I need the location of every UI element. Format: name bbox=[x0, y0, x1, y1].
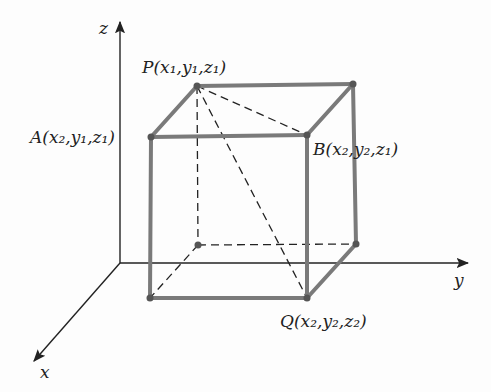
edge-A-B bbox=[151, 135, 307, 137]
vertex-back-bottom-left bbox=[195, 242, 202, 249]
point-A-label: A(x₂,y₁,z₁) bbox=[28, 127, 115, 147]
point-P-label: P(x₁,y₁,z₁) bbox=[141, 57, 226, 77]
y-axis-label: y bbox=[453, 270, 464, 290]
point-Q-label: Q(x₂,y₂,z₂) bbox=[280, 311, 367, 331]
edge-Q-back-bottom-right bbox=[307, 244, 356, 298]
edge-A-front-bottom-left bbox=[150, 137, 151, 298]
x-axis-label: x bbox=[40, 362, 50, 382]
box-edges bbox=[150, 84, 356, 298]
dashed-P-to-B bbox=[197, 86, 307, 135]
axes bbox=[34, 22, 468, 361]
vertex-B bbox=[304, 132, 311, 139]
point-B-label: B(x₂,y₂,z₁) bbox=[312, 139, 398, 159]
edge-back-right-vertical bbox=[353, 84, 356, 244]
z-axis-label: z bbox=[98, 18, 109, 38]
vertex-back-bottom-right bbox=[353, 241, 360, 248]
edge-A-P bbox=[151, 86, 197, 137]
vertex-A bbox=[148, 134, 155, 141]
box-diagram: z y x P(x₁,y₁,z₁) A(x₂,y₁,z₁) B(x₂,y₂,z₁… bbox=[0, 0, 491, 392]
dashed-back-bottom-edge bbox=[198, 244, 356, 245]
dashed-P-to-back-bottom-left bbox=[197, 86, 198, 245]
vertex-front-bottom-left bbox=[147, 295, 154, 302]
dashed-back-bottom-left-to-front bbox=[150, 245, 198, 298]
edge-back-top-right-B bbox=[307, 84, 353, 135]
dashed-P-to-Q bbox=[197, 86, 307, 298]
vertex-back-top-right bbox=[350, 81, 357, 88]
edge-P-back-top-right bbox=[197, 84, 353, 86]
vertex-P bbox=[194, 83, 201, 90]
vertex-Q bbox=[304, 295, 311, 302]
x-axis bbox=[34, 263, 120, 361]
diagram-canvas: z y x P(x₁,y₁,z₁) A(x₂,y₁,z₁) B(x₂,y₂,z₁… bbox=[0, 0, 491, 392]
